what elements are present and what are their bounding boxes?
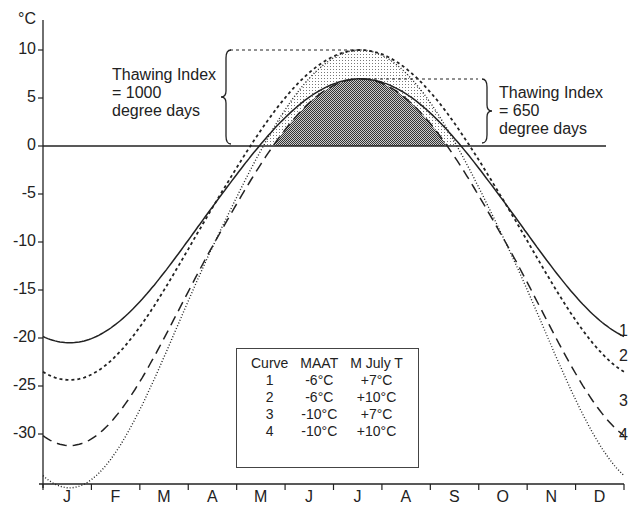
annotation-line: = 1000 — [112, 84, 216, 102]
legend-cell: +7°C — [344, 372, 409, 389]
month-label: F — [91, 488, 139, 506]
y-tick-label: -30 — [2, 424, 36, 442]
y-tick-label: -20 — [2, 328, 36, 346]
legend-cell: -6°C — [294, 372, 344, 389]
legend-header: MAAT — [294, 355, 344, 372]
y-tick-label: -15 — [2, 280, 36, 298]
annotation-line: Thawing Index — [499, 84, 603, 102]
month-label: J — [285, 488, 333, 506]
month-label: A — [188, 488, 236, 506]
legend-cell: 2 — [245, 389, 294, 406]
legend-cell: +10°C — [344, 423, 409, 440]
month-label: M — [237, 488, 285, 506]
annotation-line: degree days — [499, 120, 603, 138]
legend-row: 1 -6°C +7°C — [245, 372, 409, 389]
y-axis-unit: °C — [2, 10, 36, 28]
month-label: J — [334, 488, 382, 506]
month-label: M — [140, 488, 188, 506]
brace-left — [221, 50, 231, 144]
legend-row: 2 -6°C +10°C — [245, 389, 409, 406]
annotation-thawing-index-1000: Thawing Index = 1000 degree days — [112, 66, 216, 120]
curve-label-2: 2 — [619, 347, 628, 365]
y-tick-label: 0 — [2, 136, 36, 154]
month-label: N — [527, 488, 575, 506]
legend-cell: 4 — [245, 423, 294, 440]
y-tick-label: -25 — [2, 376, 36, 394]
month-label: O — [479, 488, 527, 506]
legend-row: 3 -10°C +7°C — [245, 406, 409, 423]
month-label: S — [430, 488, 478, 506]
annotation-line: Thawing Index — [112, 66, 216, 84]
month-label: A — [382, 488, 430, 506]
legend-cell: 3 — [245, 406, 294, 423]
month-label: D — [576, 488, 624, 506]
curve-label-3: 3 — [619, 392, 628, 410]
annotation-thawing-index-650: Thawing Index = 650 degree days — [499, 84, 603, 138]
legend-row: 4 -10°C +10°C — [245, 423, 409, 440]
legend-cell: -6°C — [294, 389, 344, 406]
legend-header: M July T — [344, 355, 409, 372]
y-tick-label: -5 — [2, 184, 36, 202]
legend-cell: 1 — [245, 372, 294, 389]
legend-table: Curve MAAT M July T 1 -6°C +7°C 2 -6°C +… — [236, 348, 419, 468]
legend-cell: -10°C — [294, 423, 344, 440]
y-tick-label: -10 — [2, 232, 36, 250]
legend-header-row: Curve MAAT M July T — [245, 355, 409, 372]
legend-cell: +10°C — [344, 389, 409, 406]
legend-header: Curve — [245, 355, 294, 372]
y-tick-label: 5 — [2, 88, 36, 106]
legend-cell: +7°C — [344, 406, 409, 423]
legend-cell: -10°C — [294, 406, 344, 423]
curve-label-4: 4 — [619, 426, 628, 444]
annotation-line: degree days — [112, 102, 216, 120]
curve-label-1: 1 — [619, 322, 628, 340]
annotation-line: = 650 — [499, 102, 603, 120]
brace-right — [482, 79, 492, 143]
y-tick-label: 10 — [2, 40, 36, 58]
month-label: J — [43, 488, 91, 506]
